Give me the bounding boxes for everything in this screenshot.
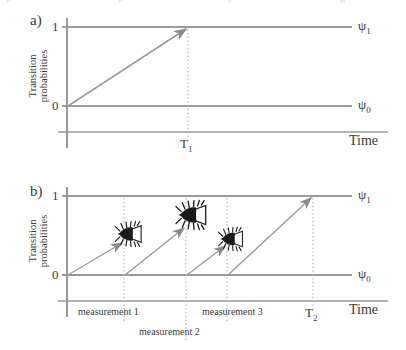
panel-a: a) Transition probabilities 1 0 [0, 0, 406, 175]
measurement-3-label: measurement 3 [202, 306, 263, 317]
psi-subscript: 0 [366, 274, 371, 284]
panel-b-time-axis-label: Time [349, 302, 378, 318]
panel-a-t1-label: T1 [180, 136, 192, 154]
panel-a-time-axis-label: Time [349, 133, 378, 149]
panel-b-label-psi1: ψ1 [358, 187, 371, 205]
panel-b-segment-3-arrow [187, 246, 225, 275]
panel-b-segment-1-arrow [68, 243, 122, 275]
panel-b-t2-label: T2 [305, 305, 317, 323]
panel-a-evolution-arrow [68, 29, 186, 106]
eye-icon-measurement-2 [176, 200, 206, 229]
t-subscript: 2 [313, 313, 318, 323]
measurement-2-label: measurement 2 [139, 326, 200, 337]
psi-subscript: 1 [366, 195, 371, 205]
panel-b-ytick-0: 0 [52, 267, 59, 283]
panel-a-ytick-1: 1 [52, 19, 59, 35]
figure-container: pppg a) Transition probabilities 1 0 [0, 0, 406, 350]
y-axis-label-line2: probabilities [38, 215, 49, 268]
panel-b-plot [0, 175, 406, 350]
t-subscript: 1 [188, 144, 193, 154]
psi-subscript: 1 [366, 26, 371, 36]
panel-a-y-axis-label: Transition probabilities [27, 26, 49, 126]
y-axis-label-line1: Transition [27, 55, 38, 98]
measurement-1-label: measurement 1 [78, 306, 139, 317]
eye-icon-measurement-1 [115, 221, 141, 246]
psi-glyph: ψ [358, 266, 366, 281]
eye-icon-measurement-3 [218, 227, 242, 251]
psi-glyph: ψ [358, 18, 366, 33]
panel-b-ytick-1: 1 [52, 188, 59, 204]
panel-a-plot [0, 0, 406, 175]
y-axis-label-line2: probabilities [38, 50, 49, 103]
t-glyph: T [180, 136, 188, 151]
y-axis-label-line1: Transition [27, 220, 38, 263]
panel-b-label-psi0: ψ0 [358, 266, 371, 284]
panel-b: b) Transition probabilities 1 0 [0, 175, 406, 350]
panel-b-y-axis-label: Transition probabilities [27, 191, 49, 291]
psi-glyph: ψ [358, 187, 366, 202]
t-glyph: T [305, 305, 313, 320]
panel-a-ytick-0: 0 [52, 98, 59, 114]
psi-glyph: ψ [358, 97, 366, 112]
panel-a-label-psi1: ψ1 [358, 18, 371, 36]
panel-a-label-psi0: ψ0 [358, 97, 371, 115]
psi-subscript: 0 [366, 105, 371, 115]
